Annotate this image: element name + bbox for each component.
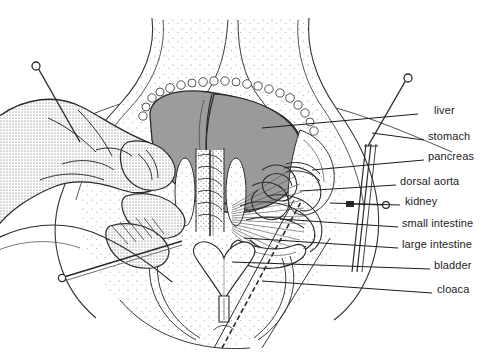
label-small-intestine[interactable]: small intestine — [402, 217, 473, 229]
label-pancreas[interactable]: pancreas — [428, 150, 474, 162]
pin-vertical-shaft — [352, 144, 378, 272]
label-bladder[interactable]: bladder — [434, 259, 471, 271]
label-kidney[interactable]: kidney — [405, 195, 437, 207]
label-liver[interactable]: liver — [434, 104, 455, 116]
label-dorsal-aorta[interactable]: dorsal aorta — [400, 175, 459, 187]
label-large-intestine[interactable]: large intestine — [402, 238, 472, 250]
label-stomach[interactable]: stomach — [428, 130, 470, 142]
frog-dissection-figure: liverstomachpancreasdorsal aortakidneysm… — [0, 0, 497, 352]
label-cloaca[interactable]: cloaca — [437, 283, 469, 295]
